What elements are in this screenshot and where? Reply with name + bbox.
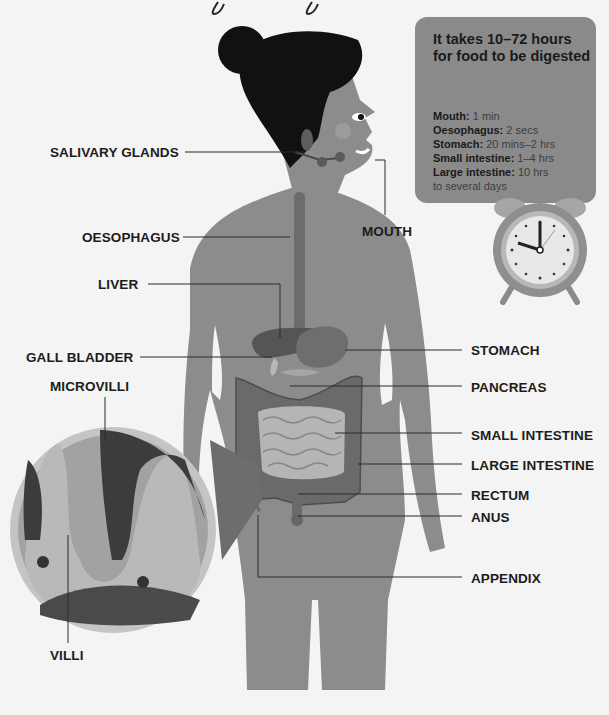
label-appendix: APPENDIX — [471, 571, 541, 586]
label-small-intestine: SMALL INTESTINE — [471, 428, 593, 443]
label-liver: LIVER — [98, 277, 138, 292]
time-row-oesophagus: Oesophagus: 2 secs — [433, 123, 555, 137]
label-salivary-glands: SALIVARY GLANDS — [50, 145, 179, 160]
label-villi: VILLI — [50, 648, 84, 663]
digestive-system-infographic: It takes 10–72 hours for food to be dige… — [0, 0, 609, 715]
alarm-clock-icon — [485, 190, 595, 310]
label-microvilli: MICROVILLI — [50, 379, 129, 394]
time-row-small-intestine: Small intestine: 1–4 hrs — [433, 151, 555, 165]
label-oesophagus: OESOPHAGUS — [82, 230, 180, 245]
label-anus: ANUS — [471, 510, 510, 525]
digestion-time-info-box: It takes 10–72 hours for food to be dige… — [415, 17, 596, 203]
label-mouth: MOUTH — [362, 224, 412, 239]
label-rectum: RECTUM — [471, 488, 529, 503]
label-stomach: STOMACH — [471, 343, 540, 358]
label-pancreas: PANCREAS — [471, 380, 547, 395]
time-row-large-intestine: Large intestine: 10 hrs — [433, 165, 555, 179]
label-gall-bladder: GALL BLADDER — [26, 350, 133, 365]
info-box-heading: It takes 10–72 hours for food to be dige… — [433, 31, 593, 65]
label-large-intestine: LARGE INTESTINE — [471, 458, 594, 473]
time-row-stomach: Stomach: 20 mins–2 hrs — [433, 137, 555, 151]
time-row-mouth: Mouth: 1 min — [433, 109, 555, 123]
digestion-times-list: Mouth: 1 min Oesophagus: 2 secs Stomach:… — [433, 109, 555, 193]
